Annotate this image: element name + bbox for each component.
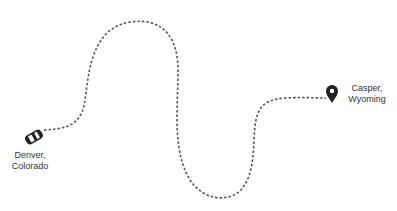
- destination-region: Wyoming: [342, 94, 392, 105]
- route-map: Denver, Colorado Casper, Wyoming: [0, 0, 397, 211]
- car-icon: [24, 128, 45, 146]
- destination-city: Casper,: [342, 83, 392, 94]
- origin-label: Denver, Colorado: [8, 150, 52, 172]
- origin-region: Colorado: [8, 161, 52, 172]
- destination-label: Casper, Wyoming: [342, 83, 392, 105]
- origin-city: Denver,: [8, 150, 52, 161]
- route-path: [0, 0, 397, 211]
- map-pin-icon: [326, 85, 338, 103]
